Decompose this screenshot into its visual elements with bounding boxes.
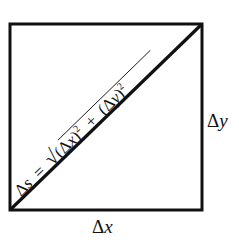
delta-y-label: Δy xyxy=(207,110,228,131)
distance-formula: Δs = √(Δx)2 + (Δy)2 xyxy=(6,45,165,200)
formula-text: Δs = √(Δx)2 + (Δy)2 xyxy=(6,76,133,201)
delta-x-label: Δx xyxy=(92,216,113,237)
distance-diagram: Δx Δy Δs = √(Δx)2 + (Δy)2 xyxy=(0,0,239,244)
radical-overline xyxy=(58,50,150,140)
